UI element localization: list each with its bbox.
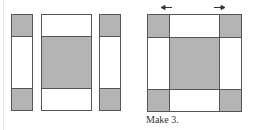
block-right-rect: [219, 37, 242, 90]
block-corner-top-right: [219, 14, 242, 38]
block-top-rect: [169, 14, 220, 38]
block-corner-top-left: [147, 14, 170, 38]
right-strip-middle-rect: [99, 36, 121, 89]
make-count-caption: Make 3.: [146, 114, 179, 125]
arrow-left-icon: [161, 6, 172, 10]
block-corner-bottom-right: [219, 89, 242, 112]
center-bottom-rect: [41, 88, 92, 111]
right-strip-bottom-square: [99, 88, 121, 111]
block-bottom-rect: [169, 89, 220, 112]
left-strip-middle-rect: [11, 36, 33, 89]
block-left-rect: [147, 37, 170, 90]
arrow-right-icon: [214, 6, 225, 10]
center-square: [41, 36, 92, 89]
block-corner-bottom-left: [147, 89, 170, 112]
block-center-square: [169, 37, 220, 90]
left-strip-bottom-square: [11, 88, 33, 111]
